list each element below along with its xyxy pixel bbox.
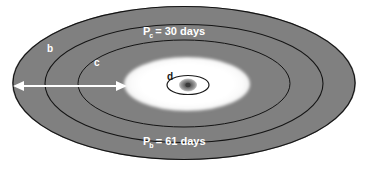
period-value-b: 61 bbox=[165, 135, 177, 147]
orbit-diagram-figure: b c d Pc= 30 days Pb= 61 days bbox=[0, 0, 369, 173]
orbit-label-c: c bbox=[94, 58, 100, 68]
period-subscript-c: c bbox=[149, 32, 153, 39]
orbit-label-b: b bbox=[47, 44, 53, 54]
period-equals-c: = bbox=[155, 25, 161, 37]
orbit-label-d: d bbox=[167, 72, 173, 82]
period-subscript-b: b bbox=[149, 142, 153, 149]
period-value-c: 30 bbox=[165, 25, 177, 37]
period-label-c: Pc= 30 days bbox=[143, 26, 205, 37]
central-star bbox=[179, 79, 197, 92]
period-unit-b: days bbox=[180, 135, 205, 147]
period-label-b: Pb= 61 days bbox=[143, 136, 206, 147]
period-unit-c: days bbox=[180, 25, 205, 37]
period-equals-b: = bbox=[156, 135, 162, 147]
